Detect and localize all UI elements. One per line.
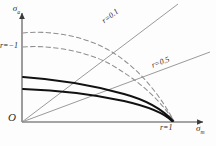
y-axis-label: σa bbox=[13, 4, 20, 15]
r-neg1-label: r=−1 bbox=[0, 42, 18, 50]
ray-r-0.5 bbox=[22, 52, 210, 122]
fatigue-limit-diagram: σa σm O r=−1 r=1 r=0.1 r=0.5 bbox=[0, 0, 216, 146]
x-axis-label: σm bbox=[196, 124, 204, 135]
dashed-upper-limit-curve bbox=[23, 32, 174, 121]
solid-upper-design-curve bbox=[23, 77, 173, 121]
origin-label: O bbox=[8, 112, 16, 123]
r-1-label: r=1 bbox=[160, 124, 173, 132]
